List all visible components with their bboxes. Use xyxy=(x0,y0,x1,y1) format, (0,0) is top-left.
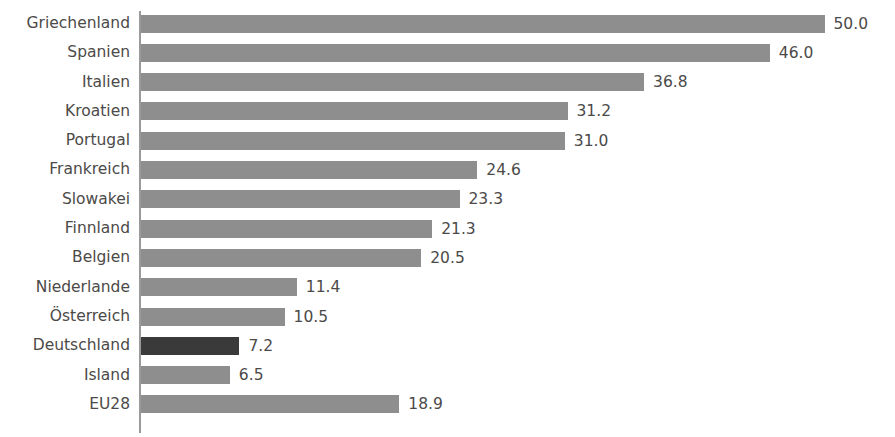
bar-row: Italien36.8 xyxy=(0,68,895,97)
bar-value-label: 18.9 xyxy=(399,395,443,413)
bar-container: 11.4 xyxy=(141,278,297,296)
bar xyxy=(141,249,421,267)
bar-container: 24.6 xyxy=(141,161,477,179)
bar-container: 18.9 xyxy=(141,395,399,413)
category-label: Island xyxy=(84,361,130,390)
bar-value-label: 10.5 xyxy=(285,308,329,326)
bar-container: 21.3 xyxy=(141,220,432,238)
bar-row: Island6.5 xyxy=(0,361,895,390)
plot-area: Griechenland50.0Spanien46.0Italien36.8Kr… xyxy=(0,9,895,437)
bar-value-label: 7.2 xyxy=(239,337,273,355)
bar xyxy=(141,220,432,238)
category-label: Österreich xyxy=(50,302,130,331)
category-label: Deutschland xyxy=(33,331,130,360)
bar-chart: Griechenland50.0Spanien46.0Italien36.8Kr… xyxy=(0,0,895,437)
category-label: Niederlande xyxy=(36,273,130,302)
bar-container: 20.5 xyxy=(141,249,421,267)
category-label: Belgien xyxy=(72,243,130,272)
bar-row: Österreich10.5 xyxy=(0,302,895,331)
bar-row: Slowakei23.3 xyxy=(0,185,895,214)
bar-value-label: 24.6 xyxy=(477,161,521,179)
bar-value-label: 11.4 xyxy=(297,278,341,296)
category-label: Griechenland xyxy=(27,9,130,38)
bar-container: 6.5 xyxy=(141,366,230,384)
bar xyxy=(141,395,399,413)
bar-value-label: 6.5 xyxy=(230,366,264,384)
bar-row: Portugal31.0 xyxy=(0,126,895,155)
bar-container: 31.0 xyxy=(141,132,565,150)
bar-row: Niederlande11.4 xyxy=(0,273,895,302)
bar-value-label: 31.0 xyxy=(565,132,609,150)
category-label: Finnland xyxy=(65,214,130,243)
category-label: Italien xyxy=(82,68,130,97)
bar-container: 31.2 xyxy=(141,102,568,120)
bar xyxy=(141,132,565,150)
bar-row: Frankreich24.6 xyxy=(0,155,895,184)
bar-row: Spanien46.0 xyxy=(0,38,895,67)
bar-highlighted xyxy=(141,337,239,355)
category-label: Kroatien xyxy=(65,97,130,126)
category-label: Frankreich xyxy=(49,155,130,184)
category-label: Portugal xyxy=(66,126,130,155)
bar xyxy=(141,278,297,296)
bar-value-label: 21.3 xyxy=(432,220,476,238)
bar xyxy=(141,190,460,208)
bar-container: 10.5 xyxy=(141,308,285,326)
bar-row: Kroatien31.2 xyxy=(0,97,895,126)
bar-value-label: 50.0 xyxy=(825,15,869,33)
bar-row: EU2818.9 xyxy=(0,390,895,419)
category-label: EU28 xyxy=(89,390,130,419)
bar-rows: Griechenland50.0Spanien46.0Italien36.8Kr… xyxy=(0,9,895,419)
bar-value-label: 46.0 xyxy=(770,44,814,62)
category-label: Spanien xyxy=(67,38,130,67)
bar xyxy=(141,73,644,91)
bar-row: Belgien20.5 xyxy=(0,243,895,272)
bar-row: Griechenland50.0 xyxy=(0,9,895,38)
bar-container: 23.3 xyxy=(141,190,460,208)
bar-value-label: 20.5 xyxy=(421,249,465,267)
bar-value-label: 36.8 xyxy=(644,73,688,91)
bar-container: 7.2 xyxy=(141,337,239,355)
bar xyxy=(141,308,285,326)
bar-value-label: 23.3 xyxy=(460,190,504,208)
bar xyxy=(141,102,568,120)
bar xyxy=(141,161,477,179)
chart-title-clipped xyxy=(0,0,895,9)
bar-row: Deutschland7.2 xyxy=(0,331,895,360)
bar-value-label: 31.2 xyxy=(568,102,612,120)
bar xyxy=(141,15,825,33)
category-label: Slowakei xyxy=(62,185,130,214)
bar xyxy=(141,366,230,384)
bar xyxy=(141,44,770,62)
bar-container: 46.0 xyxy=(141,44,770,62)
bar-row: Finnland21.3 xyxy=(0,214,895,243)
bar-container: 36.8 xyxy=(141,73,644,91)
bar-container: 50.0 xyxy=(141,15,825,33)
